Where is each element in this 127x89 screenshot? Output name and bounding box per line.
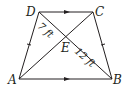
side-bc — [93, 12, 112, 79]
trapezoid-diagram: D C A B E 7 ft 12 ft — [0, 0, 127, 89]
intersection-label-e: E — [60, 41, 70, 55]
vertex-label-a: A — [7, 73, 17, 87]
diagonal-db — [39, 12, 112, 79]
parallel-arrow-icon — [64, 10, 70, 14]
diagonal-ac — [19, 12, 93, 79]
parallel-arrow-icon — [64, 77, 70, 81]
measurement-eb: 12 ft — [73, 45, 99, 70]
vertex-label-b: B — [112, 73, 122, 87]
vertex-label-d: D — [25, 5, 36, 19]
side-ad — [19, 12, 39, 79]
tick-mark-icon — [27, 44, 31, 45]
vertex-label-c: C — [95, 5, 104, 19]
measurement-de: 7 ft — [36, 20, 57, 40]
